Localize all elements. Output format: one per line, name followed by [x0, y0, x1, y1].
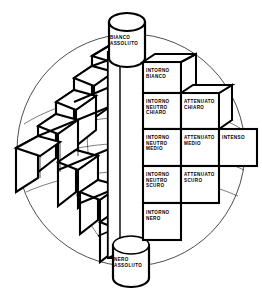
cell-label-attenuato-scuro: ATTENUATO SCURO	[184, 172, 220, 183]
achromatic-axis-cylinder	[108, 46, 144, 258]
cell-label-intorno-bianco: INTORNO BIANCO	[146, 68, 182, 79]
cell-label-intorno-nero: INTORNO NERO	[146, 210, 182, 221]
cell-label-intorno-neutro-medio: INTORNO NEUTRO MEDIO	[146, 135, 182, 152]
cell-label-intorno-neutro-scuro: INTORNO NEUTRO SCURO	[146, 172, 182, 189]
cell-label-attenuato-chiaro: ATTENUATO CHIARO	[184, 99, 220, 110]
cell-label-attenuato-medio: ATTENUATO MEDIO	[184, 135, 220, 146]
axis-label-bianco-assoluto: BIANCO ASSOLUTO	[110, 35, 146, 47]
axis-label-nero-assoluto: NERO ASSOLUTO	[114, 257, 152, 269]
color-solid-figure: BIANCO ASSOLUTO NERO ASSOLUTO INTORNO BI…	[0, 0, 262, 297]
cell-label-intenso: INTENSO	[222, 135, 258, 141]
cell-label-intorno-neutro-chiaro: INTORNO NEUTRO CHIARO	[146, 99, 182, 116]
